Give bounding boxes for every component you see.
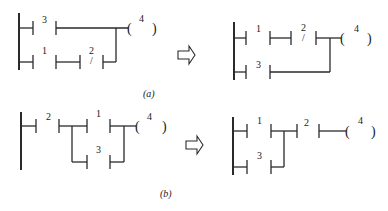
nc-mark: /	[90, 55, 93, 66]
contact-label: 1	[42, 45, 47, 56]
contact-label: 2	[304, 117, 309, 128]
contact-2-nc: 2 /	[89, 28, 116, 69]
coil-4: ( 4 )	[340, 23, 372, 47]
nc-mark: /	[302, 32, 305, 43]
contact-1: 1	[96, 108, 136, 133]
contact-label: 1	[256, 23, 261, 34]
coil-label: 4	[358, 115, 363, 126]
coil-label: 4	[139, 13, 144, 24]
contact-1: 1	[233, 115, 297, 138]
contact-label: 3	[96, 144, 101, 155]
svg-text:): )	[162, 119, 167, 135]
contact-3: 3	[233, 131, 284, 174]
ladder-diagram-figure: 3 1 2 / ( 4 ) (a)	[0, 0, 388, 211]
panel-b-after: 1 3 2 ( 4 )	[233, 115, 376, 175]
contact-2-nc: 2 /	[301, 22, 341, 45]
contact-label: 3	[257, 150, 262, 161]
coil-4: ( 4 )	[345, 115, 376, 140]
panel-a-after: 1 2 / 3 ( 4 )	[234, 22, 372, 80]
svg-text:(: (	[345, 124, 350, 140]
coil-4: ( 4 )	[135, 111, 167, 135]
hollow-right-arrow-icon	[186, 136, 203, 154]
hollow-right-arrow-icon	[178, 46, 195, 64]
coil-label: 4	[354, 23, 359, 34]
panel-b-before: 2 1 3 ( 4 )	[21, 108, 167, 170]
coil-4: ( 4 )	[127, 13, 157, 37]
contact-2: 2	[304, 117, 346, 138]
contact-label: 3	[256, 59, 261, 70]
svg-text:(: (	[127, 21, 132, 37]
contact-label: 2	[46, 111, 51, 122]
contact-label: 1	[257, 115, 262, 126]
caption-a: (a)	[143, 88, 155, 100]
svg-text:): )	[367, 31, 372, 47]
svg-text:(: (	[135, 119, 140, 135]
contact-3: 3	[87, 126, 124, 169]
contact-label: 1	[96, 108, 101, 119]
caption-b: (b)	[160, 188, 172, 200]
contact-2: 2	[21, 111, 59, 133]
coil-label: 4	[147, 111, 152, 122]
contact-1: 1	[19, 45, 80, 69]
contact-label: 3	[42, 14, 47, 25]
svg-text:(: (	[340, 31, 345, 47]
svg-text:): )	[152, 21, 157, 37]
contact-3: 3	[19, 14, 56, 35]
panel-a-before: 3 1 2 / ( 4 )	[19, 13, 157, 70]
contact-1: 1	[234, 23, 291, 45]
svg-text:): )	[371, 124, 376, 140]
